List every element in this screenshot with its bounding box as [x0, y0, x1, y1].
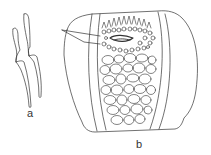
inner-band-left-outer	[89, 14, 97, 131]
inner-band-right-outer	[159, 14, 170, 129]
inner-band-left-inner	[97, 14, 106, 130]
dense-cell-cluster	[102, 16, 155, 53]
panel-a-drawing	[13, 13, 42, 107]
figure-canvas	[0, 0, 211, 155]
panel-b-drawing	[62, 11, 197, 132]
pointer-lines	[62, 30, 100, 44]
spicule-right	[24, 13, 42, 97]
panel-a-label: a	[27, 108, 33, 119]
spicule-left	[13, 28, 31, 108]
panel-b-label: b	[136, 139, 142, 150]
oval-cells	[100, 54, 156, 125]
